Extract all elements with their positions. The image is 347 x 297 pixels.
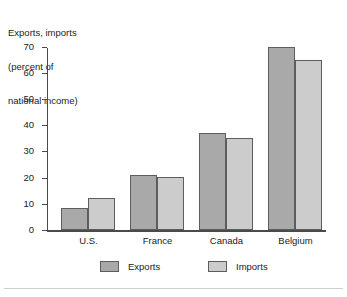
y-tick-40: 40 [42,125,47,126]
y-tick-10: 10 [42,204,47,205]
legend-swatch-exports [100,261,119,272]
bottom-divider [4,288,343,289]
bar-us-exports [61,208,88,230]
bar-france-imports [157,177,184,230]
y-tick-30: 30 [42,151,47,152]
plot-area: 0 10 20 30 40 50 60 70 U.S. [47,46,326,232]
legend-label-exports: Exports [128,261,160,272]
bar-chart-figure: Exports, imports (percent of national in… [0,0,347,297]
x-axis-line [47,230,326,232]
x-tick-label-belgium: Belgium [268,235,323,246]
y-tick-label-50: 50 [23,93,34,104]
y-tick-50: 50 [42,99,47,100]
y-tick-label-20: 20 [23,172,34,183]
bar-canada-exports [199,133,226,230]
bar-us-imports [88,198,115,230]
axis-title-line-1: Exports, imports [8,27,78,38]
legend-item-imports: Imports [208,258,268,274]
legend-label-imports: Imports [236,261,268,272]
chart-legend: Exports Imports [0,258,347,278]
bar-group-us: U.S. [61,46,116,230]
y-tick-label-10: 10 [23,198,34,209]
y-tick-60: 60 [42,73,47,74]
legend-swatch-imports [208,261,227,272]
x-tick-label-france: France [130,235,185,246]
y-tick-label-30: 30 [23,145,34,156]
y-tick-70: 70 [42,47,47,48]
x-tick-label-us: U.S. [61,235,116,246]
y-tick-label-40: 40 [23,119,34,130]
y-axis-line [47,48,48,232]
legend-item-exports: Exports [100,258,160,274]
bar-group-canada: Canada [199,46,254,230]
y-tick-0: 0 [42,230,47,231]
bar-belgium-imports [295,60,322,230]
bar-france-exports [130,175,157,230]
y-tick-label-0: 0 [29,224,34,235]
bar-group-france: France [130,46,185,230]
y-tick-label-60: 60 [23,67,34,78]
bar-belgium-exports [268,47,295,230]
bar-group-belgium: Belgium [268,46,323,230]
x-tick-label-canada: Canada [199,235,254,246]
y-tick-label-70: 70 [23,41,34,52]
y-tick-20: 20 [42,178,47,179]
bar-canada-imports [226,138,253,230]
